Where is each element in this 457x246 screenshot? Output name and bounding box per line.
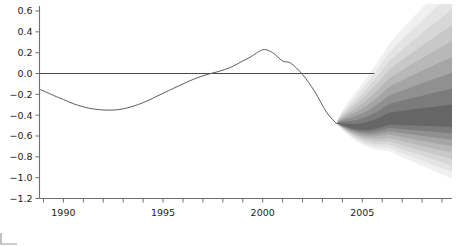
y-tick-label: −1.2 bbox=[9, 193, 32, 204]
x-tick-label: 1990 bbox=[51, 207, 75, 218]
y-tick-label: −0.8 bbox=[9, 151, 32, 162]
historical-series-line bbox=[40, 50, 337, 124]
chart-figure: 0.60.40.20.0−0.2−0.4−0.6−0.8−1.0−1.2 199… bbox=[0, 0, 457, 246]
forecast-fan bbox=[336, 0, 452, 179]
fan-chart: 0.60.40.20.0−0.2−0.4−0.6−0.8−1.0−1.2 199… bbox=[0, 0, 457, 246]
y-tick-label: 0.6 bbox=[17, 5, 32, 16]
x-tick-label: 2000 bbox=[251, 207, 275, 218]
y-tick-label: 0.0 bbox=[17, 68, 32, 79]
y-axis-ticks: 0.60.40.20.0−0.2−0.4−0.6−0.8−1.0−1.2 bbox=[9, 5, 39, 204]
y-tick-label: −1.0 bbox=[9, 172, 32, 183]
y-tick-label: 0.2 bbox=[17, 47, 32, 58]
page-corner-mark bbox=[0, 232, 22, 246]
y-tick-label: −0.2 bbox=[9, 89, 32, 100]
x-tick-label: 1995 bbox=[151, 207, 175, 218]
x-tick-label: 2005 bbox=[350, 207, 374, 218]
y-tick-label: 0.4 bbox=[17, 26, 32, 37]
y-tick-label: −0.6 bbox=[9, 130, 32, 141]
x-axis-ticks: 1990199520002005 bbox=[43, 199, 442, 218]
y-tick-label: −0.4 bbox=[9, 110, 32, 121]
